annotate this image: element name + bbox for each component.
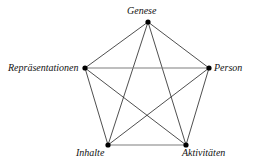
node-label-aktivitaeten: Aktivitäten (182, 148, 225, 158)
node-layer (82, 19, 211, 147)
edge-person-inhalte (108, 68, 209, 145)
edge-genese-aktivitaeten (148, 22, 186, 145)
edge-genese-inhalte (108, 22, 148, 145)
edge-inhalte-repraesentationen (85, 68, 108, 145)
pentagram-diagram: Genese Person Aktivitäten Inhalte Repräs… (0, 0, 254, 165)
edge-layer (85, 22, 209, 145)
node-dot-genese[interactable] (145, 19, 150, 24)
node-label-repraesentationen: Repräsentationen (8, 63, 79, 73)
node-dot-repraesentationen[interactable] (82, 65, 87, 70)
node-dot-inhalte[interactable] (105, 142, 110, 147)
edge-person-aktivitaeten (186, 68, 209, 145)
node-label-genese: Genese (127, 6, 156, 16)
node-label-person: Person (214, 63, 242, 73)
edge-genese-person (148, 22, 209, 68)
edge-aktivitaeten-repraesentationen (85, 68, 186, 145)
pentagram-graph-svg (0, 0, 254, 165)
node-dot-person[interactable] (206, 65, 211, 70)
edge-repraesentationen-genese (85, 22, 148, 68)
node-label-inhalte: Inhalte (76, 148, 104, 158)
